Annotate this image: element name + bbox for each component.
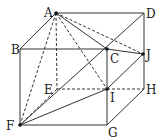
vertex-label-C: C xyxy=(110,52,119,66)
vertex-label-B: B xyxy=(11,43,20,57)
vertex-label-H: H xyxy=(146,83,156,97)
segment-AJ xyxy=(56,13,143,54)
vertex-label-F: F xyxy=(6,119,14,133)
segment-AC xyxy=(56,13,107,49)
segment-AI xyxy=(56,13,107,89)
vertex-label-E: E xyxy=(44,83,53,97)
solid-edges xyxy=(20,13,144,125)
vertex-dot-I xyxy=(105,87,109,91)
vertex-label-I: I xyxy=(110,91,115,105)
vertex-label-G: G xyxy=(108,126,118,140)
vertex-labels: ADBCJEIHFG xyxy=(6,6,156,140)
vertex-label-A: A xyxy=(43,6,53,20)
segment-AE xyxy=(56,13,57,89)
cube-diagram: ADBCJEIHFG xyxy=(0,0,161,140)
vertex-label-D: D xyxy=(146,7,156,21)
segment-FI xyxy=(20,89,107,125)
vertex-dot-F xyxy=(18,123,22,127)
vertex-label-J: J xyxy=(144,48,151,62)
vertex-dot-J xyxy=(141,52,145,56)
vertex-dot-A xyxy=(54,11,58,15)
vertex-dot-C xyxy=(105,47,109,51)
